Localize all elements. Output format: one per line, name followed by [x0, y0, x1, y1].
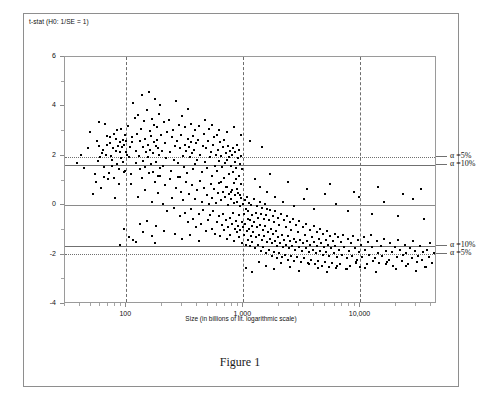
data-point	[178, 124, 180, 126]
data-point	[250, 204, 252, 206]
data-point	[180, 191, 182, 193]
data-point	[301, 250, 303, 252]
data-point	[290, 229, 292, 231]
data-point	[378, 262, 380, 264]
data-point	[243, 213, 245, 215]
x-minor-tick	[90, 303, 91, 306]
data-point	[420, 188, 422, 190]
data-point	[240, 183, 242, 185]
data-point	[325, 239, 327, 241]
data-point	[228, 156, 230, 158]
data-point	[361, 256, 363, 258]
data-point	[336, 265, 338, 267]
data-point	[325, 251, 327, 253]
data-point	[120, 128, 122, 130]
data-point	[235, 178, 237, 180]
data-point	[298, 270, 300, 272]
data-point	[225, 152, 227, 154]
data-point	[276, 245, 278, 247]
data-point	[312, 249, 314, 251]
data-point	[327, 244, 329, 246]
x-minor-tick	[231, 303, 232, 306]
data-point	[233, 126, 235, 128]
data-point	[176, 140, 178, 142]
data-point	[251, 214, 253, 216]
data-point	[135, 162, 137, 164]
data-point	[141, 177, 143, 179]
data-point	[313, 208, 315, 210]
data-point	[236, 201, 238, 203]
data-point	[274, 196, 276, 198]
data-point	[192, 168, 194, 170]
data-point	[272, 233, 274, 235]
data-point	[412, 198, 414, 200]
data-point	[367, 241, 369, 243]
data-point	[181, 115, 183, 117]
data-point	[123, 228, 125, 230]
x-axis-title: Size (in billions of lit. logarithmic sc…	[23, 315, 459, 322]
data-point	[251, 271, 253, 273]
x-minor-tick	[207, 303, 208, 306]
data-point	[129, 146, 131, 148]
data-point	[245, 244, 247, 246]
data-point	[335, 203, 337, 205]
data-point	[166, 131, 168, 133]
data-point	[219, 235, 221, 237]
data-point	[137, 196, 139, 198]
data-point	[213, 188, 215, 190]
data-point	[302, 226, 304, 228]
data-point	[404, 244, 406, 246]
annotation-leader-line	[436, 253, 447, 254]
data-point	[134, 117, 136, 119]
data-point	[399, 249, 401, 251]
data-point	[249, 140, 251, 142]
data-point	[204, 161, 206, 163]
data-point	[169, 178, 171, 180]
data-point	[273, 251, 275, 253]
data-point	[239, 163, 241, 165]
chart-container: t-stat (H0: 1/SE = 1) 6420-2-4 1001,0001…	[23, 13, 459, 333]
data-point	[147, 144, 149, 146]
data-point	[132, 102, 134, 104]
data-point	[261, 146, 263, 148]
data-point	[356, 259, 358, 261]
data-point	[227, 204, 229, 206]
data-point	[211, 175, 213, 177]
y-tick	[60, 254, 64, 255]
data-point	[259, 201, 261, 203]
data-point	[140, 128, 142, 130]
scatter-plot-area	[64, 56, 436, 303]
data-point	[191, 184, 193, 186]
data-point	[385, 263, 387, 265]
data-point	[212, 210, 214, 212]
data-point	[202, 209, 204, 211]
data-point	[180, 134, 182, 136]
data-point	[407, 263, 409, 265]
x-major-tick	[359, 303, 360, 307]
data-point	[237, 192, 239, 194]
data-point	[189, 156, 191, 158]
data-point	[179, 215, 181, 217]
data-point	[417, 255, 419, 257]
data-point	[165, 157, 167, 159]
page-canvas: t-stat (H0: 1/SE = 1) 6420-2-4 1001,0001…	[0, 0, 480, 400]
x-minor-tick	[79, 303, 80, 306]
data-point	[138, 155, 140, 157]
data-point	[124, 170, 126, 172]
data-point	[265, 252, 267, 254]
data-point	[341, 254, 343, 256]
data-point	[218, 160, 220, 162]
data-point	[296, 256, 298, 258]
data-point	[322, 233, 324, 235]
data-point	[275, 230, 277, 232]
data-point	[280, 262, 282, 264]
data-point	[331, 262, 333, 264]
data-point	[227, 145, 229, 147]
data-point	[218, 129, 220, 131]
data-point	[136, 133, 138, 135]
data-point	[298, 246, 300, 248]
data-point	[309, 244, 311, 246]
data-point	[98, 121, 100, 123]
data-point	[221, 224, 223, 226]
data-point	[151, 201, 153, 203]
